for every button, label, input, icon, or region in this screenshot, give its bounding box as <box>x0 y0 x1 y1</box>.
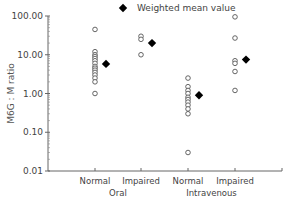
data-point-circle <box>186 150 191 155</box>
x-category-label: Normal <box>80 176 111 186</box>
data-point-circle <box>233 61 238 66</box>
weighted-mean-diamond <box>195 91 203 99</box>
x-category-label: Impaired <box>216 176 254 186</box>
weighted-mean-diamond <box>242 55 250 63</box>
data-point-circle <box>186 107 191 112</box>
x-category-label: Impaired <box>122 176 160 186</box>
data-point-circle <box>139 37 144 42</box>
data-point-circle <box>93 27 98 32</box>
weighted-mean-diamond <box>102 60 110 68</box>
data-point-circle <box>233 69 238 74</box>
data-point-circle <box>233 88 238 93</box>
y-axis-label: M6G : M ratio <box>6 63 16 124</box>
x-category-label: Normal <box>173 176 204 186</box>
y-tick-label: 0.01 <box>23 166 43 176</box>
x-group-label-intravenous: Intravenous <box>186 188 237 198</box>
weighted-mean-diamond <box>148 39 156 47</box>
legend-label: Weighted mean value <box>137 3 236 13</box>
data-point-circle <box>233 36 238 41</box>
x-group-label-oral: Oral <box>109 188 127 198</box>
y-tick-label: 100.00 <box>12 11 44 21</box>
y-tick-label: 1.00 <box>23 89 43 99</box>
y-tick-label: 0.10 <box>23 127 43 137</box>
data-point-circle <box>186 111 191 116</box>
data-point-circle <box>186 76 191 81</box>
y-tick-label: 10.00 <box>17 50 43 60</box>
data-point-circle <box>93 91 98 96</box>
chart: 100.0010.001.000.100.01M6G : M ratioNorm… <box>0 0 287 205</box>
data-point-circle <box>139 52 144 57</box>
data-point-circle <box>93 80 98 85</box>
data-point-circle <box>233 15 238 20</box>
legend-diamond-icon <box>119 4 127 12</box>
